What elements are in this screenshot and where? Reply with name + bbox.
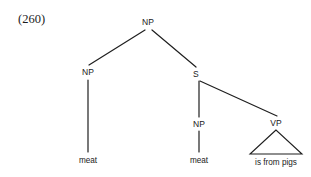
edge-root-to-s <box>152 30 196 67</box>
node-label-inner-np: NP <box>193 119 205 129</box>
vp-triangle-icon <box>250 130 302 154</box>
node-label-s-node: S <box>193 69 199 79</box>
node-label-vp-node: VP <box>270 118 282 128</box>
syntax-tree-figure: (260) NPNPSNPVP meatmeatis from pigs <box>0 0 311 177</box>
edge-root-to-left-np <box>89 30 145 65</box>
terminal-label-terminal-is-from-pigs: is from pigs <box>255 158 297 167</box>
tree-edges <box>88 30 277 152</box>
edge-s-to-vp <box>200 81 277 116</box>
terminal-label-terminal-meat-inner: meat <box>190 156 208 165</box>
node-label-root-np: NP <box>142 17 154 27</box>
node-label-left-np: NP <box>82 67 94 77</box>
terminal-label-terminal-meat-left: meat <box>79 156 97 165</box>
tree-lines <box>0 0 311 177</box>
